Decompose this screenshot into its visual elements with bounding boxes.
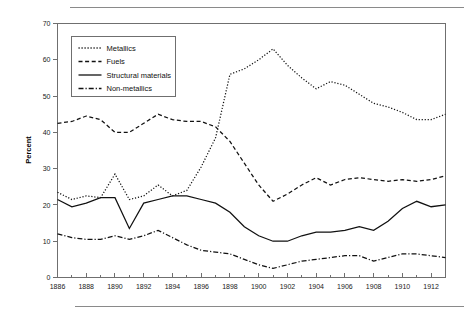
legend-label-structural-materials: Structural materials	[107, 71, 172, 80]
x-tick-label: 1894	[165, 283, 181, 290]
y-tick-label: 70	[43, 20, 51, 27]
legend-label-non-metallics: Non-metallics	[107, 84, 153, 93]
legend-label-metallics: Metallics	[107, 44, 136, 53]
x-tick-label: 1902	[280, 283, 296, 290]
legend-label-fuels: Fuels	[107, 57, 126, 66]
y-axis-title: Percent	[24, 136, 33, 164]
y-tick-label: 50	[43, 93, 51, 100]
chart-legend: MetallicsFuelsStructural materialsNon-me…	[72, 37, 176, 97]
x-tick-label: 1906	[337, 283, 353, 290]
series-line-structural-materials	[58, 196, 446, 241]
x-tick-label: 1896	[193, 283, 209, 290]
x-tick-label: 1886	[50, 283, 66, 290]
x-tick-label: 1912	[423, 283, 439, 290]
x-tick-label: 1890	[107, 283, 123, 290]
x-tick-label: 1892	[136, 283, 152, 290]
series-line-non-metallics	[58, 230, 446, 268]
y-tick-label: 10	[43, 238, 51, 245]
series-line-fuels	[58, 114, 446, 201]
x-axis-ticks: 1886188818901892189418961898190019021904…	[50, 273, 446, 290]
y-tick-label: 40	[43, 129, 51, 136]
y-tick-label: 0	[47, 274, 51, 281]
chart-figure: 010203040506070 188618881890189218941896…	[0, 0, 464, 316]
x-tick-label: 1908	[366, 283, 382, 290]
x-tick-label: 1900	[251, 283, 267, 290]
bottom-divider-rule	[75, 306, 464, 307]
y-tick-label: 20	[43, 202, 51, 209]
y-axis-title-label: Percent	[24, 136, 33, 164]
x-tick-label: 1910	[395, 283, 411, 290]
x-tick-label: 1898	[222, 283, 238, 290]
y-tick-label: 30	[43, 165, 51, 172]
y-axis-ticks: 010203040506070	[43, 20, 58, 281]
x-tick-label: 1904	[308, 283, 324, 290]
line-chart-plot: 010203040506070 188618881890189218941896…	[0, 0, 464, 316]
y-tick-label: 60	[43, 56, 51, 63]
top-divider-rule	[70, 7, 464, 8]
x-tick-label: 1888	[78, 283, 94, 290]
